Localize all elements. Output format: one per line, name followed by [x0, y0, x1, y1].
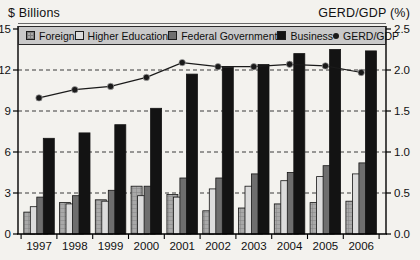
gerd-gdp-marker-icon — [333, 33, 339, 39]
gerd-gdp-point-2003 — [251, 63, 257, 69]
chart-legend: Foreign Higher Education Federal Governm… — [18, 26, 386, 45]
bar-business-2005 — [330, 50, 341, 235]
legend-label-business: Business — [290, 30, 333, 42]
left-tick-15: 15 — [0, 23, 11, 35]
legend-item-higher-education: Higher Education — [75, 30, 169, 42]
bar-business-2002 — [222, 67, 233, 234]
legend-label-gerd-gdp: GERD/GDP — [343, 30, 399, 42]
legend-item-business: Business — [277, 30, 333, 42]
gerd-gdp-line-series — [36, 59, 365, 101]
bar-business-2004 — [294, 54, 305, 234]
bar-business-2006 — [365, 51, 376, 234]
gerd-gdp-point-2004 — [286, 61, 292, 67]
left-tick-6: 6 — [5, 146, 11, 158]
bar-business-1997 — [43, 138, 54, 234]
right-tick-1.0: 1.0 — [394, 146, 410, 158]
bar-business-1999 — [115, 125, 126, 234]
legend-item-federal-government: Federal Government — [168, 30, 277, 42]
federal-government-swatch-icon — [168, 31, 177, 40]
legend-label-foreign: Foreign — [39, 30, 75, 42]
gerd-gdp-point-1998 — [72, 87, 78, 93]
year-label-2002: 2002 — [205, 240, 231, 252]
bar-business-2003 — [258, 65, 269, 235]
gerd-gdp-point-2006 — [358, 69, 364, 75]
gerd-chart-figure: $ Billions GERD/GDP (%) 036912150.00.51.… — [0, 0, 420, 260]
legend-item-gerd-gdp: GERD/GDP — [333, 30, 399, 42]
right-tick-0.0: 0.0 — [394, 228, 410, 240]
left-tick-12: 12 — [0, 64, 11, 76]
foreign-swatch-icon — [26, 31, 35, 40]
bar-business-1998 — [79, 133, 90, 234]
left-tick-3: 3 — [5, 187, 11, 199]
year-label-2006: 2006 — [348, 240, 374, 252]
gerd-gdp-point-2001 — [179, 59, 185, 65]
higher-education-swatch-icon — [75, 31, 84, 40]
year-label-2004: 2004 — [277, 240, 303, 252]
gerd-gdp-point-2005 — [322, 63, 328, 69]
left-tick-9: 9 — [5, 105, 11, 117]
right-tick-0.5: 0.5 — [394, 187, 410, 199]
gerd-gdp-point-1999 — [107, 83, 113, 89]
year-label-2005: 2005 — [313, 240, 339, 252]
year-label-1997: 1997 — [26, 240, 52, 252]
year-label-2000: 2000 — [134, 240, 160, 252]
right-tick-1.5: 1.5 — [394, 105, 410, 117]
bar-business-2000 — [151, 108, 162, 234]
year-label-1999: 1999 — [98, 240, 124, 252]
legend-label-federal-government: Federal Government — [181, 30, 277, 42]
business-swatch-icon — [277, 31, 286, 40]
gerd-gdp-point-2002 — [215, 63, 221, 69]
gerd-gdp-point-1997 — [36, 95, 42, 101]
year-label-2003: 2003 — [241, 240, 267, 252]
left-tick-0: 0 — [5, 228, 11, 240]
year-label-2001: 2001 — [169, 240, 195, 252]
year-label-1998: 1998 — [62, 240, 88, 252]
gerd-gdp-point-2000 — [143, 74, 149, 80]
legend-label-higher-education: Higher Education — [88, 30, 169, 42]
bar-groups — [24, 50, 377, 235]
legend-item-foreign: Foreign — [26, 30, 75, 42]
bar-business-2001 — [186, 74, 197, 234]
right-tick-2.0: 2.0 — [394, 64, 410, 76]
